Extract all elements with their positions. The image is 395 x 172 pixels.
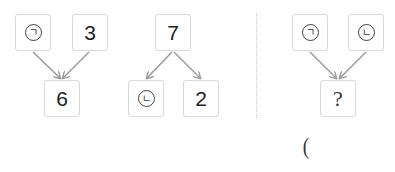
arrow-7-to-n bbox=[147, 52, 172, 78]
arrow-g-to-q bbox=[310, 52, 336, 78]
box-3: 3 bbox=[72, 14, 108, 51]
arrow-n-to-q bbox=[340, 52, 366, 78]
box-7: 7 bbox=[155, 14, 191, 51]
box-g-left: ㄱ bbox=[15, 14, 51, 51]
box-6: 6 bbox=[44, 80, 80, 117]
box-g-right: ㄱ bbox=[292, 14, 328, 51]
box-value: 7 bbox=[167, 21, 179, 45]
box-value: 3 bbox=[84, 21, 96, 45]
circled-n-label: ㄴ bbox=[358, 24, 375, 41]
box-value: 2 bbox=[195, 87, 207, 111]
circled-g-label: ㄱ bbox=[25, 24, 42, 41]
arrow-3-to-6 bbox=[63, 52, 89, 78]
answer-paren: ( bbox=[303, 133, 309, 160]
arrow-g-to-6 bbox=[33, 52, 60, 78]
box-value: 6 bbox=[56, 87, 68, 111]
box-n-middle: ㄴ bbox=[128, 80, 164, 117]
box-2: 2 bbox=[183, 80, 219, 117]
box-question: ? bbox=[320, 80, 356, 117]
circled-n-label: ㄴ bbox=[138, 90, 155, 107]
circled-g-label: ㄱ bbox=[302, 24, 319, 41]
question-mark: ? bbox=[333, 86, 343, 112]
dotted-divider bbox=[256, 13, 257, 118]
box-n-right: ㄴ bbox=[348, 14, 384, 51]
arrow-7-to-2 bbox=[174, 52, 200, 78]
